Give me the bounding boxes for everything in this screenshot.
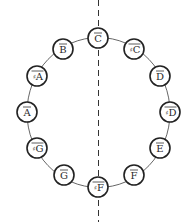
note-node-ds: ♯D — [160, 102, 180, 122]
note-node-e: E — [150, 138, 170, 158]
note-node-as: ♯A — [27, 66, 47, 86]
note-node-b: B — [53, 39, 73, 59]
note-label: D — [156, 71, 164, 82]
note-label: F — [131, 170, 138, 181]
note-node-gs: ♯G — [27, 138, 47, 158]
note-node-fs: ♯F — [88, 177, 108, 197]
note-label: E — [156, 143, 163, 154]
note-label: G — [60, 170, 68, 181]
note-node-d: D — [150, 66, 170, 86]
note-label: C — [94, 33, 102, 44]
note-node-c: C — [88, 28, 108, 48]
note-node-f: F — [124, 165, 144, 185]
note-node-g: G — [54, 165, 74, 185]
note-node-cs: ♯C — [124, 39, 144, 59]
note-label: B — [59, 44, 66, 55]
pitch-class-circle-diagram: C♯CD♯DEF♯FG♯GA♯AB — [0, 0, 194, 222]
note-node-a: A — [17, 102, 37, 122]
note-label: A — [22, 107, 31, 118]
